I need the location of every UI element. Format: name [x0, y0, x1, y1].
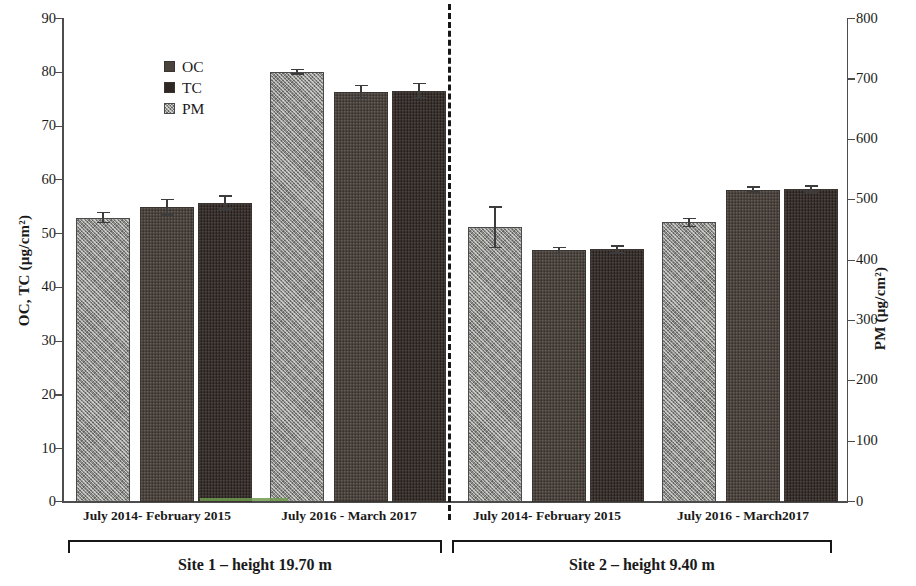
tick-mark-left-90 — [55, 18, 62, 19]
errorbar-cap-top — [355, 85, 368, 87]
errorbar-cap-bottom — [355, 97, 368, 99]
bar-pm-group2 — [270, 72, 324, 502]
errorbar-cap-top — [683, 218, 696, 220]
tick-mark-left-0 — [55, 501, 62, 502]
errorbar-cap-bottom — [553, 253, 566, 255]
legend-label-oc: OC — [182, 56, 204, 77]
y-tick-right-800: 800 — [856, 11, 900, 25]
bar-oc-group3 — [532, 250, 586, 502]
errorbar-cap-bottom — [683, 226, 696, 228]
errorbar-cap-top — [291, 69, 304, 71]
site-label-2: Site 2 – height 9.40 m — [452, 556, 832, 574]
errorbar-tc-group4 — [784, 185, 838, 193]
y-tick-left-30: 30 — [16, 333, 56, 347]
y-tick-left-50: 50 — [16, 226, 56, 240]
bar-oc-group2 — [334, 92, 388, 502]
legend-item-tc: TC — [164, 77, 204, 98]
y-tick-left-0: 0 — [16, 494, 56, 508]
legend-swatch-pm-icon — [164, 103, 175, 114]
tick-mark-right-200 — [848, 380, 855, 381]
errorbar-tc-group3 — [590, 245, 644, 254]
errorbar-cap-bottom — [219, 208, 232, 210]
scan-artifact — [200, 498, 288, 501]
y-tick-right-200: 200 — [856, 372, 900, 386]
errorbar-cap-top — [413, 83, 426, 85]
bar-pm-group4 — [662, 222, 716, 502]
y-tick-right-400: 400 — [856, 252, 900, 266]
errorbar-cap-top — [611, 245, 624, 247]
errorbar-cap-bottom — [161, 214, 174, 216]
tick-mark-right-100 — [848, 441, 855, 442]
errorbar-cap-top — [553, 247, 566, 249]
errorbar-cap-top — [489, 206, 502, 208]
legend-swatch-tc-icon — [164, 82, 175, 93]
tick-mark-right-500 — [848, 199, 855, 200]
errorbar-cap-top — [747, 186, 760, 188]
errorbar-oc-group1 — [140, 199, 194, 216]
tick-mark-left-40 — [55, 287, 62, 288]
tick-mark-right-400 — [848, 260, 855, 261]
y-axis-right-ticks: 800 700 600 500 400 300 200 100 0 — [856, 0, 900, 586]
tick-mark-left-70 — [55, 126, 62, 127]
bar-oc-group1 — [140, 207, 194, 502]
bar-tc-group2 — [392, 91, 446, 502]
errorbar-pm-group3 — [468, 206, 522, 248]
plot-area: OC TC PM — [62, 18, 848, 502]
site-divider-line — [448, 4, 451, 520]
y-tick-left-40: 40 — [16, 279, 56, 293]
errorbar-stem — [494, 206, 496, 248]
y-axis-left-line — [62, 18, 64, 502]
site-label-1: Site 1 – height 19.70 m — [68, 556, 442, 574]
bar-tc-group1 — [198, 203, 252, 503]
tick-mark-right-0 — [848, 501, 855, 502]
tick-mark-right-800 — [848, 18, 855, 19]
y-axis-left-ticks: 90 80 70 60 50 40 30 20 10 0 — [16, 0, 56, 586]
errorbar-pm-group1 — [76, 212, 130, 224]
errorbar-tc-group1 — [198, 195, 252, 210]
tick-mark-right-700 — [848, 78, 855, 79]
x-category-label-3: July 2014- February 2015 — [452, 508, 642, 524]
bar-pm-group1 — [76, 218, 130, 503]
x-category-label-2: July 2016 - March 2017 — [254, 508, 444, 524]
legend-label-tc: TC — [182, 77, 202, 98]
errorbar-cap-top — [161, 199, 174, 201]
legend-label-pm: PM — [182, 98, 204, 119]
errorbar-cap-top — [805, 185, 818, 187]
tick-mark-right-300 — [848, 320, 855, 321]
errorbar-oc-group2 — [334, 85, 388, 99]
site-bracket-1 — [68, 540, 442, 553]
tick-mark-left-50 — [55, 233, 62, 234]
x-category-label-4: July 2016 - March2017 — [648, 508, 838, 524]
tick-mark-left-10 — [55, 448, 62, 449]
errorbar-cap-bottom — [611, 252, 624, 254]
y-tick-right-600: 600 — [856, 131, 900, 145]
y-tick-left-90: 90 — [16, 11, 56, 25]
errorbar-pm-group2 — [270, 69, 324, 76]
x-category-label-1: July 2014- February 2015 — [62, 508, 252, 524]
errorbar-cap-bottom — [413, 97, 426, 99]
y-tick-left-20: 20 — [16, 387, 56, 401]
bar-tc-group4 — [784, 189, 838, 502]
errorbar-cap-bottom — [291, 73, 304, 75]
tick-mark-left-60 — [55, 179, 62, 180]
errorbar-pm-group4 — [662, 218, 716, 228]
y-tick-right-100: 100 — [856, 433, 900, 447]
chart-legend: OC TC PM — [164, 56, 204, 119]
legend-item-oc: OC — [164, 56, 204, 77]
tick-mark-right-600 — [848, 139, 855, 140]
y-tick-right-700: 700 — [856, 71, 900, 85]
legend-item-pm: PM — [164, 98, 204, 119]
bar-pm-group3 — [468, 227, 522, 502]
errorbar-tc-group2 — [392, 83, 446, 99]
errorbar-cap-bottom — [805, 191, 818, 193]
errorbar-cap-bottom — [747, 191, 760, 193]
bar-oc-group4 — [726, 190, 780, 502]
errorbar-oc-group4 — [726, 186, 780, 193]
y-tick-left-60: 60 — [16, 172, 56, 186]
errorbar-cap-top — [219, 195, 232, 197]
y-tick-right-500: 500 — [856, 191, 900, 205]
y-tick-right-300: 300 — [856, 312, 900, 326]
bar-tc-group3 — [590, 249, 644, 502]
tick-mark-left-30 — [55, 341, 62, 342]
y-tick-left-70: 70 — [16, 118, 56, 132]
